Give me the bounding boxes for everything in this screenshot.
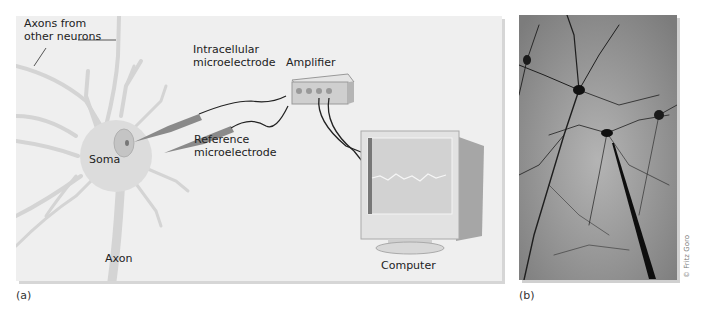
neuron-photo-image — [519, 15, 677, 280]
computer-monitor-icon — [361, 131, 484, 254]
caption-a: (a) — [16, 289, 31, 302]
label-amplifier: Amplifier — [286, 56, 336, 69]
label-axon: Axon — [105, 252, 132, 265]
label-intracellular-line2: microelectrode — [193, 56, 276, 69]
caption-b: (b) — [519, 289, 535, 302]
photomicrograph-panel-b — [519, 15, 677, 280]
label-axons-line1: Axons from — [24, 17, 86, 30]
label-reference-line2: microelectrode — [194, 146, 277, 159]
label-reference-line1: Reference — [194, 133, 249, 146]
photo-credit: © Fritz Goro — [683, 235, 691, 278]
label-axons-line2: other neurons — [24, 30, 101, 43]
diagram-panel-a: Axons from other neurons Intracellular m… — [16, 16, 502, 281]
label-intracellular-line1: Intracellular — [193, 43, 259, 56]
label-computer: Computer — [381, 259, 436, 272]
label-soma: Soma — [89, 153, 120, 166]
amplifier-icon — [292, 74, 354, 104]
